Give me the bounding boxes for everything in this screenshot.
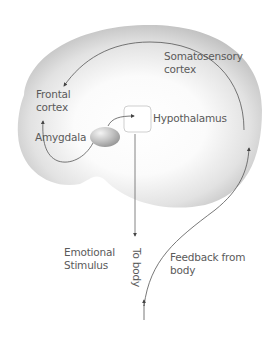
- feedback-label: Feedback from body: [170, 251, 245, 277]
- to-body-label: To body: [130, 248, 143, 287]
- stimulus-label: Emotional Stimulus: [64, 246, 115, 272]
- frontal-line2: cortex: [36, 101, 71, 114]
- amygdala-text: Amygdala: [35, 131, 86, 144]
- hypothalamus-text: Hypothalamus: [153, 112, 227, 125]
- amygdala-sphere: [90, 127, 120, 147]
- stimulus-line1: Emotional: [64, 246, 115, 259]
- hypothalamus-label: Hypothalamus: [153, 112, 227, 125]
- frontal-label: Frontal cortex: [36, 88, 71, 114]
- amygdala-label: Amygdala: [35, 131, 86, 144]
- feedback-line1: Feedback from: [170, 251, 245, 264]
- frontal-line1: Frontal: [36, 88, 71, 101]
- hypothalamus-box: [124, 106, 151, 132]
- feedback-line2: body: [170, 264, 245, 277]
- somatosensory-line2: cortex: [164, 63, 243, 76]
- stimulus-line2: Stimulus: [64, 259, 115, 272]
- somatosensory-line1: Somatosensory: [164, 50, 243, 63]
- to-body-text: To body: [130, 248, 143, 287]
- somatosensory-label: Somatosensory cortex: [164, 50, 243, 76]
